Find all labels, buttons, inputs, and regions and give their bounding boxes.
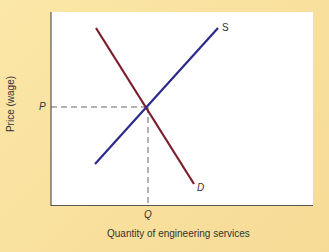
chart-canvas <box>0 0 329 252</box>
y-axis-label: Price (wage) <box>5 76 16 132</box>
q-tick-label: Q <box>144 209 152 220</box>
plot-area <box>51 12 313 205</box>
x-axis-label: Quantity of engineering services <box>107 228 250 239</box>
p-tick-label: P <box>39 101 46 112</box>
supply-label: S <box>222 22 229 33</box>
demand-label: D <box>197 182 204 193</box>
